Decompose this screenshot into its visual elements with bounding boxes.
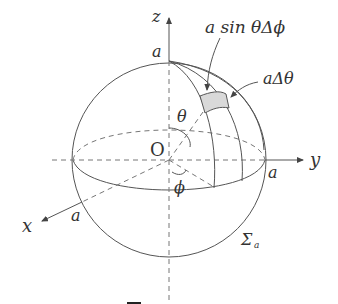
label-origin: O (150, 139, 165, 160)
label-z: z (151, 7, 161, 26)
pointer-arc-phi (207, 38, 220, 90)
x-axis-dashed (82, 160, 169, 202)
label-arc-theta: aΔθ (263, 69, 294, 88)
label-y: y (309, 149, 321, 170)
label-a-top: a (152, 42, 162, 61)
label-phi: ϕ (174, 178, 185, 197)
label-sigma: Σ (240, 230, 253, 249)
surface-patch (200, 92, 229, 113)
label-sigma-sub: a (254, 240, 259, 250)
label-a-right: a (268, 163, 278, 182)
label-a-front: a (71, 206, 81, 225)
label-arc-phi: a sin θΔϕ (205, 17, 286, 37)
label-x: x (22, 215, 32, 236)
sphere-diagram: z a y a x a O θ ϕ a sin θΔϕ aΔθ Σ a (0, 0, 338, 304)
label-theta: θ (177, 107, 187, 126)
phi-arc (172, 170, 186, 174)
